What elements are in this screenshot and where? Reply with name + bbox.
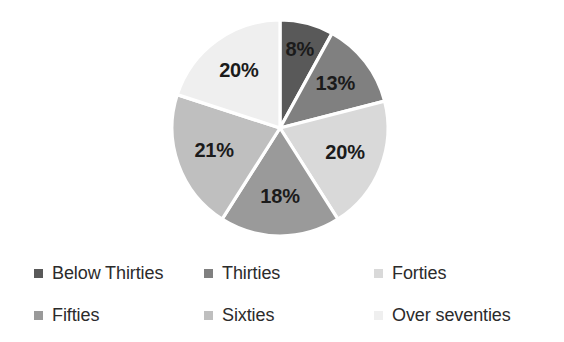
pie-slice-data-label: 20% [219,59,259,81]
legend-item-label: Below Thirties [52,263,163,284]
legend-swatch-icon [34,311,43,320]
legend-item-label: Thirties [222,263,280,284]
pie-slice-data-label: 20% [325,141,365,163]
legend-item-fifties[interactable]: Fifties [34,294,204,336]
legend-swatch-icon [374,269,383,278]
legend-item-label: Over seventies [392,305,511,326]
legend-item-label: Fifties [52,305,99,326]
legend-swatch-icon [374,311,383,320]
pie-slice-data-label: 18% [260,185,300,207]
legend-swatch-icon [204,311,213,320]
legend-item-forties[interactable]: Forties [374,252,544,294]
legend-item-label: Forties [392,263,446,284]
chart-legend: Below Thirties Thirties Forties Fifties … [34,252,544,336]
legend-item-over-seventies[interactable]: Over seventies [374,294,544,336]
pie-svg: 8%13%20%18%21%20% [0,0,564,250]
pie-slice-data-label: 13% [316,72,356,94]
pie-plot-area: 8%13%20%18%21%20% [0,0,564,250]
legend-swatch-icon [204,269,213,278]
pie-chart-figure: 8%13%20%18%21%20% Below Thirties Thirtie… [0,0,564,342]
legend-swatch-icon [34,269,43,278]
legend-item-thirties[interactable]: Thirties [204,252,374,294]
pie-slice-data-label: 21% [194,139,234,161]
legend-item-label: Sixties [222,305,274,326]
pie-slice-data-label: 8% [286,38,315,60]
legend-item-sixties[interactable]: Sixties [204,294,374,336]
legend-item-below-thirties[interactable]: Below Thirties [34,252,204,294]
